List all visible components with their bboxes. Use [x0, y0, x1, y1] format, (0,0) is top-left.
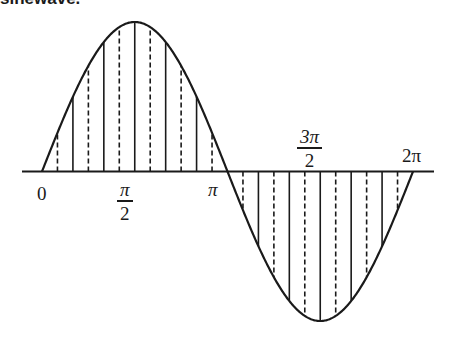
tick-label-pi: π [208, 180, 218, 199]
tick-label-half-pi: π 2 [117, 180, 133, 223]
fraction-denominator: 2 [305, 149, 315, 170]
sine-wave-diagram [0, 0, 449, 337]
fraction-numerator: 3π [297, 127, 322, 147]
tick-label-three-half-pi: 3π 2 [297, 127, 322, 170]
tick-label-two-pi: 2π [402, 146, 421, 165]
fraction-numerator: π [117, 180, 133, 200]
fraction-denominator: 2 [120, 202, 130, 223]
tick-label-zero: 0 [37, 184, 47, 203]
two-pi-text: 2π [402, 145, 421, 166]
